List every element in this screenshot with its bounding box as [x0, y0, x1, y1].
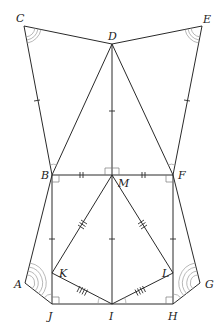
arc-I-right	[125, 298, 127, 305]
arc-B	[50, 164, 57, 165]
tick-ML-3	[138, 220, 144, 224]
label-A: A	[13, 278, 22, 291]
right-angle-J	[52, 297, 59, 304]
label-H: H	[167, 310, 178, 323]
arc-E-1	[191, 28, 200, 37]
label-D: D	[107, 30, 117, 43]
label-K: K	[58, 267, 68, 280]
label-C: C	[16, 12, 25, 25]
arc-A-1	[27, 275, 35, 289]
label-F: F	[177, 169, 186, 182]
label-J: J	[46, 310, 53, 323]
tick-EF	[184, 100, 190, 101]
arc-C-1	[26, 28, 35, 37]
arc-H	[173, 294, 181, 298]
tick-CB	[34, 100, 40, 101]
segment-DF	[112, 44, 173, 175]
right-angle-H	[166, 297, 173, 304]
arc-G-1	[190, 275, 198, 289]
segment-CD	[24, 26, 112, 44]
right-angle-B	[52, 175, 59, 182]
segment-DE	[112, 26, 202, 44]
label-L: L	[161, 267, 169, 280]
arc-J	[44, 294, 52, 298]
label-M: M	[117, 177, 130, 190]
label-E: E	[202, 13, 211, 26]
arc-F	[168, 164, 175, 165]
label-B: B	[40, 169, 49, 182]
label-G: G	[205, 278, 214, 291]
arc-I-left	[98, 298, 100, 305]
label-I: I	[108, 310, 114, 323]
geometry-figure: C D E B M F K L A G J I H	[0, 0, 223, 333]
segment-DB	[52, 44, 112, 175]
right-angle-F	[166, 175, 173, 182]
